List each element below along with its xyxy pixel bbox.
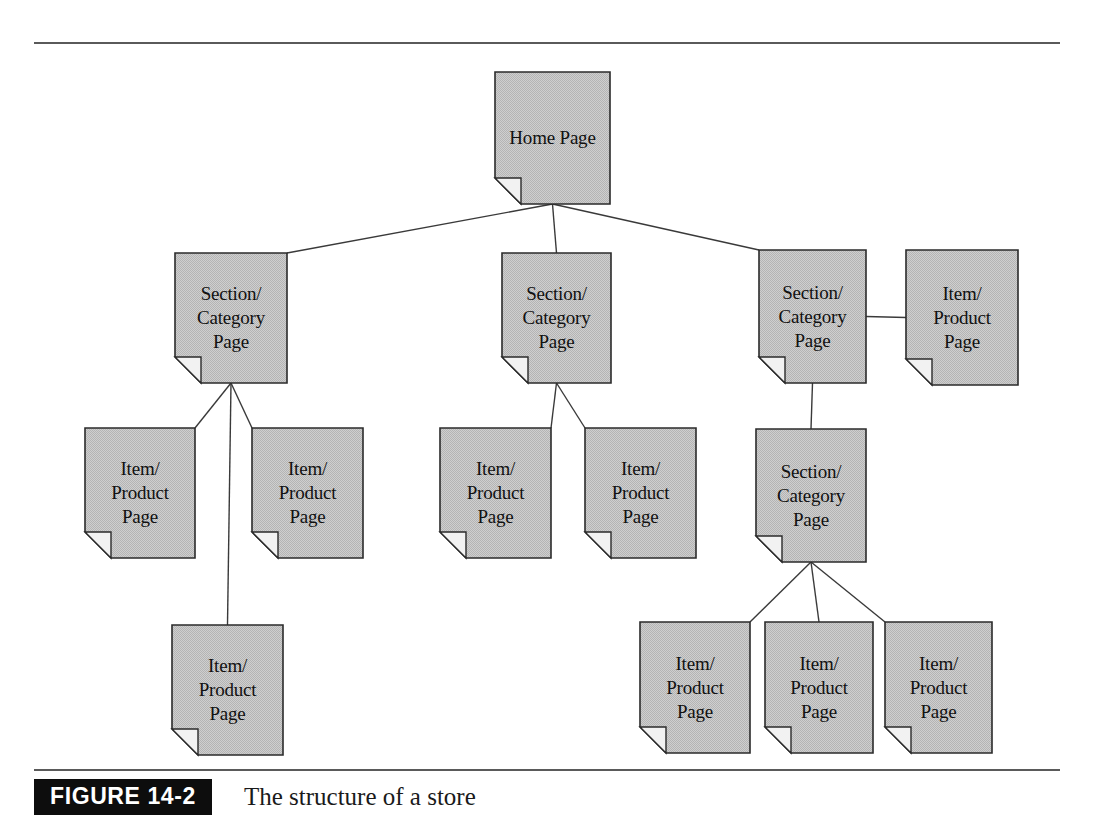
node-label-line: Item/ (621, 458, 661, 479)
node-label-line: Category (777, 485, 846, 506)
node-label-line: Page (122, 506, 158, 527)
node-label-line: Category (778, 306, 847, 327)
figure-caption-row: FIGURE 14-2 The structure of a store (34, 779, 476, 815)
node-label-line: Item/ (208, 655, 248, 676)
page-fold-icon (585, 532, 611, 558)
node-label-line: Section/ (201, 283, 263, 304)
connector-sec1-item_a (195, 383, 231, 428)
diagram-node-item[interactable]: Item/ProductPage (172, 625, 283, 755)
node-label-line: Product (933, 307, 992, 328)
node-label-line: Item/ (476, 458, 516, 479)
node-label-line: Product (790, 677, 849, 698)
node-label-line: Item/ (675, 653, 715, 674)
page-fold-icon (175, 357, 201, 383)
node-label-line: Home Page (509, 127, 595, 148)
diagram-node-section[interactable]: Section/CategoryPage (502, 253, 611, 383)
figure-page: Home PageSection/CategoryPageSection/Cat… (0, 0, 1096, 825)
diagram-node-item[interactable]: Item/ProductPage (906, 250, 1018, 385)
connector-home-sec1 (287, 204, 553, 253)
diagram-node-item[interactable]: Item/ProductPage (85, 428, 195, 558)
node-label-line: Item/ (799, 653, 839, 674)
page-fold-icon (765, 727, 791, 753)
figure-caption-text: The structure of a store (244, 783, 476, 811)
node-label-line: Section/ (781, 461, 843, 482)
node-label-line: Item/ (120, 458, 160, 479)
node-label-line: Product (279, 482, 338, 503)
node-label-line: Page (920, 701, 956, 722)
diagram-node-section[interactable]: Section/CategoryPage (175, 253, 287, 383)
connector-sec3-item_r0 (866, 317, 906, 318)
site-structure-diagram: Home PageSection/CategoryPageSection/Cat… (0, 0, 1096, 825)
node-label-line: Item/ (942, 283, 982, 304)
page-fold-icon (756, 536, 782, 562)
node-label-line: Section/ (526, 283, 588, 304)
node-label-line: Product (612, 482, 671, 503)
node-label-line: Page (677, 701, 713, 722)
page-fold-icon (502, 357, 528, 383)
node-label-line: Page (289, 506, 325, 527)
node-label-line: Page (213, 331, 249, 352)
connector-sec3-sec4 (811, 383, 813, 429)
page-fold-icon (495, 178, 521, 204)
node-label-line: Item/ (288, 458, 328, 479)
node-label-line: Product (666, 677, 725, 698)
node-label-line: Product (910, 677, 969, 698)
page-fold-icon (640, 727, 666, 753)
page-fold-icon (906, 359, 932, 385)
node-label-line: Product (111, 482, 170, 503)
diagram-node-home[interactable]: Home Page (495, 72, 610, 204)
diagram-node-item[interactable]: Item/ProductPage (252, 428, 363, 558)
page-fold-icon (885, 727, 911, 753)
connector-sec4-item_h (811, 562, 885, 622)
diagram-node-item[interactable]: Item/ProductPage (765, 622, 873, 753)
diagram-node-item[interactable]: Item/ProductPage (885, 622, 992, 753)
node-label-line: Page (209, 703, 245, 724)
page-fold-icon (85, 532, 111, 558)
node-label-line: Category (522, 307, 591, 328)
page-fold-icon (172, 729, 198, 755)
page-fold-icon (759, 357, 785, 383)
diagram-node-section[interactable]: Section/CategoryPage (756, 429, 866, 562)
diagram-node-section[interactable]: Section/CategoryPage (759, 250, 866, 383)
node-label-line: Page (622, 506, 658, 527)
connector-sec4-item_g (811, 562, 819, 622)
connector-sec2-item_e (557, 383, 586, 428)
page-fold-icon (440, 532, 466, 558)
node-label-line: Product (467, 482, 526, 503)
connector-sec1-item_b (231, 383, 252, 428)
diagram-node-item[interactable]: Item/ProductPage (640, 622, 750, 753)
connector-home-sec3 (553, 204, 760, 250)
node-label-line: Section/ (782, 282, 844, 303)
node-label-line: Page (538, 331, 574, 352)
connector-home-sec2 (553, 204, 557, 253)
node-label-line: Product (199, 679, 258, 700)
diagram-node-item[interactable]: Item/ProductPage (585, 428, 696, 558)
node-label-line: Page (793, 509, 829, 530)
node-label-line: Page (944, 331, 980, 352)
diagram-node-item[interactable]: Item/ProductPage (440, 428, 551, 558)
node-label-line: Page (477, 506, 513, 527)
connector-sec2-item_d (551, 383, 557, 428)
diagram-nodes: Home PageSection/CategoryPageSection/Cat… (85, 72, 1018, 755)
node-label-line: Page (801, 701, 837, 722)
connector-sec1-item_c (228, 383, 232, 625)
connector-sec4-item_f (750, 562, 811, 622)
node-label-line: Category (197, 307, 266, 328)
page-fold-icon (252, 532, 278, 558)
figure-number-badge: FIGURE 14-2 (34, 779, 212, 815)
node-label-line: Item/ (919, 653, 959, 674)
node-label-line: Page (794, 330, 830, 351)
